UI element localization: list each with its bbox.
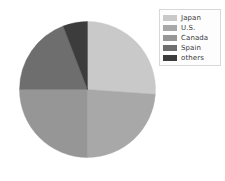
pie-slice-canada[interactable] bbox=[20, 90, 88, 158]
legend-label-japan: Japan bbox=[181, 14, 201, 22]
chart-legend: Japan U.S. Canada Spain others bbox=[159, 9, 221, 66]
pie-slice-group bbox=[20, 22, 156, 158]
legend-label-others: others bbox=[181, 54, 204, 62]
pie-chart-figure: Japan U.S. Canada Spain others bbox=[0, 0, 225, 181]
legend-item-canada[interactable]: Canada bbox=[163, 33, 217, 42]
pie-slice-japan[interactable] bbox=[88, 22, 156, 95]
pie-slice-u-s[interactable] bbox=[88, 90, 156, 158]
legend-label-us: U.S. bbox=[181, 24, 195, 32]
legend-item-spain[interactable]: Spain bbox=[163, 43, 217, 52]
pie-chart-plot-area bbox=[19, 20, 156, 159]
legend-label-spain: Spain bbox=[181, 44, 201, 52]
legend-swatch-japan bbox=[163, 15, 177, 21]
legend-label-canada: Canada bbox=[181, 34, 208, 42]
legend-item-others[interactable]: others bbox=[163, 53, 217, 62]
legend-swatch-spain bbox=[163, 45, 177, 51]
legend-swatch-others bbox=[163, 55, 177, 61]
legend-swatch-canada bbox=[163, 35, 177, 41]
legend-item-japan[interactable]: Japan bbox=[163, 13, 217, 22]
pie-chart-svg bbox=[19, 20, 156, 159]
legend-swatch-us bbox=[163, 25, 177, 31]
legend-item-us[interactable]: U.S. bbox=[163, 23, 217, 32]
